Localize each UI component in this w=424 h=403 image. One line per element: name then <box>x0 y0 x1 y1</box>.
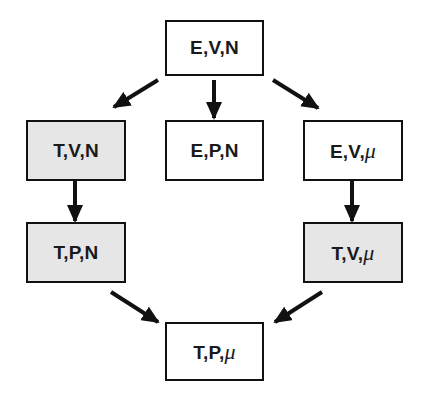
node-t-p-mu: T,P,μ <box>165 322 264 381</box>
arrow-tvmu-to-tpmu <box>275 292 322 322</box>
diagram-canvas: E,V,N T,V,N E,P,N E,V,μ T,P,N T,V,μ T,P,… <box>0 0 424 403</box>
arrow-tpn-to-tpmu <box>111 292 158 322</box>
node-e-p-n: E,P,N <box>165 120 264 181</box>
node-e-v-n: E,V,N <box>165 20 264 76</box>
arrow-evn-to-tvn <box>114 80 158 107</box>
node-label: T,V,N <box>53 140 99 162</box>
node-label: E,P,N <box>190 140 238 162</box>
node-t-v-mu: T,V,μ <box>303 222 403 283</box>
node-label: T,P,N <box>53 242 98 264</box>
node-label: E,V,N <box>190 37 239 59</box>
node-e-v-mu: E,V,μ <box>303 120 403 181</box>
node-label: E,V,μ <box>330 138 376 164</box>
node-t-v-n: T,V,N <box>26 120 126 181</box>
mu-symbol: μ <box>363 240 374 265</box>
node-label: T,V,μ <box>331 240 374 266</box>
node-t-p-n: T,P,N <box>26 222 126 283</box>
node-label: T,P,μ <box>193 339 235 365</box>
mu-symbol: μ <box>224 339 235 364</box>
arrow-evn-to-evmu <box>273 80 318 108</box>
mu-symbol: μ <box>365 138 376 163</box>
